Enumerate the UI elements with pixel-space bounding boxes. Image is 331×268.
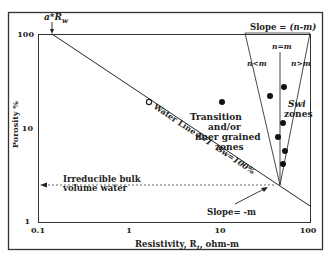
n-lt-m-label: n<m (247, 59, 267, 68)
y-axis-label: Porosity % (10, 101, 20, 148)
transition-label: Transition (190, 112, 242, 122)
x-tick-0.1: 0.1 (31, 225, 45, 235)
arrow-up-right-icon (261, 187, 268, 192)
data-point (280, 161, 286, 167)
data-point (267, 93, 273, 99)
arw-label: a*Rw (44, 12, 69, 25)
data-point (275, 134, 281, 140)
data-point-open (146, 99, 151, 104)
data-point (282, 148, 288, 154)
plot-area (39, 35, 311, 223)
arrow-left-icon (40, 183, 47, 188)
and-or-label: and/or (208, 122, 241, 132)
n-gt-m-label: n>m (291, 59, 311, 68)
n-eq-m-label: n=m (272, 42, 292, 51)
arrow-down-icon (50, 29, 54, 34)
swi-label: Swi (288, 99, 306, 109)
data-point (281, 84, 287, 90)
pickett-plot: a*Rw Slope = (n-m) n=m n<m n>m Swi zones… (0, 0, 331, 268)
data-point (219, 99, 225, 105)
x-tick-100: 100 (300, 225, 317, 235)
x-tick-10: 10 (214, 225, 226, 235)
irreducible-label-2: volume water (62, 183, 128, 193)
y-tick-1: 1 (24, 216, 30, 226)
slope-m-arrow-stem (235, 189, 264, 204)
data-point (280, 120, 286, 126)
slope-m-label: Slope= -m (207, 207, 256, 217)
swi-zones-label: zones (284, 109, 312, 119)
slope-n-m-label: Slope = (n-m) (250, 22, 316, 32)
x-tick-1: 1 (126, 225, 132, 235)
y-tick-100: 100 (17, 29, 34, 39)
y-tick-10: 10 (22, 123, 34, 133)
